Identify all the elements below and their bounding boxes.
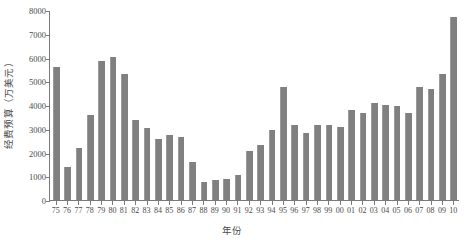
- y-axis-tick-mark: [46, 177, 50, 178]
- bar-series: [50, 11, 459, 200]
- x-axis-tick-label: 77: [74, 206, 82, 216]
- x-axis-tick-mark: [294, 201, 295, 205]
- x-axis-tick-mark: [317, 201, 318, 205]
- x-axis-tick-label: 99: [324, 206, 332, 216]
- x-axis-tick-label: 91: [233, 206, 241, 216]
- bar: [246, 151, 253, 200]
- bar: [394, 106, 401, 200]
- x-axis-tick-label: 78: [86, 206, 94, 216]
- x-axis-tick-label: 84: [154, 206, 162, 216]
- bar: [326, 125, 333, 200]
- bar: [64, 167, 71, 200]
- x-axis-tick-label: 07: [415, 206, 423, 216]
- x-axis-tick-mark: [90, 201, 91, 205]
- bar: [201, 182, 208, 200]
- x-axis-tick-label: 00: [336, 206, 344, 216]
- bar: [257, 145, 264, 200]
- bar: [223, 179, 230, 200]
- y-axis-tick-label: 8000: [29, 7, 46, 16]
- x-axis-tick-mark: [306, 201, 307, 205]
- x-axis-tick-mark: [192, 201, 193, 205]
- x-axis-tick-mark: [78, 201, 79, 205]
- x-axis-tick-mark: [124, 201, 125, 205]
- x-axis-tick-mark: [272, 201, 273, 205]
- x-axis-tick-mark: [340, 201, 341, 205]
- x-axis-tick-label: 05: [393, 206, 401, 216]
- x-axis-tick-label: 89: [211, 206, 219, 216]
- bar-chart-figure: 经费预算（万美元） 010002000300040005000600070008…: [0, 0, 464, 246]
- bar: [98, 61, 105, 200]
- bar: [450, 17, 457, 200]
- bar: [110, 57, 117, 200]
- x-axis-tick-label: 81: [120, 206, 128, 216]
- y-axis-tick-label: 1000: [29, 173, 46, 182]
- x-axis-tick-mark: [328, 201, 329, 205]
- x-axis-tick-mark: [169, 201, 170, 205]
- x-axis-tick-label: 92: [245, 206, 253, 216]
- x-axis-tick-mark: [442, 201, 443, 205]
- x-axis-tick-label: 82: [131, 206, 139, 216]
- y-axis-tick-label: 5000: [29, 78, 46, 87]
- x-axis-tick-mark: [101, 201, 102, 205]
- x-axis-tick-mark: [147, 201, 148, 205]
- bar: [360, 113, 367, 200]
- x-axis-tick-label: 08: [427, 206, 435, 216]
- bar: [53, 67, 60, 200]
- x-axis-tick-mark: [351, 201, 352, 205]
- x-axis-tick-mark: [237, 201, 238, 205]
- y-axis-tick-mark: [46, 11, 50, 12]
- bar: [291, 125, 298, 200]
- bar: [382, 105, 389, 200]
- x-axis-tick-label: 09: [438, 206, 446, 216]
- x-axis-tick-label: 06: [404, 206, 412, 216]
- y-axis-tick-mark: [46, 59, 50, 60]
- bar: [314, 125, 321, 200]
- x-axis-tick-label: 88: [199, 206, 207, 216]
- bar: [235, 175, 242, 200]
- bar: [439, 74, 446, 200]
- x-axis-tick-label: 93: [256, 206, 264, 216]
- x-axis-tick-mark: [56, 201, 57, 205]
- x-axis-tick-label: 86: [177, 206, 185, 216]
- bar: [76, 148, 83, 200]
- y-axis-tick-mark: [46, 154, 50, 155]
- bar: [269, 130, 276, 200]
- y-axis-tick-mark: [46, 82, 50, 83]
- bar: [132, 120, 139, 200]
- bar: [371, 103, 378, 200]
- x-axis-tick-label: 01: [347, 206, 355, 216]
- x-axis-tick-label: 79: [97, 206, 105, 216]
- y-axis-tick-mark: [46, 130, 50, 131]
- bar: [280, 87, 287, 200]
- bar: [121, 74, 128, 200]
- y-axis-title-text: 经费预算（万美元）: [1, 57, 15, 149]
- x-axis-tick-mark: [203, 201, 204, 205]
- x-axis-title: 年份: [0, 223, 464, 237]
- x-axis-tick-mark: [362, 201, 363, 205]
- y-axis-tick-mark: [46, 35, 50, 36]
- x-axis-tick-label: 75: [52, 206, 60, 216]
- x-axis-tick-mark: [249, 201, 250, 205]
- x-axis-tick-mark: [226, 201, 227, 205]
- bar: [166, 135, 173, 200]
- x-axis-tick-label: 76: [63, 206, 71, 216]
- bar: [348, 110, 355, 200]
- plot-area: [49, 11, 459, 201]
- y-axis-tick-label: 3000: [29, 126, 46, 135]
- y-axis-tick-label: 7000: [29, 31, 46, 40]
- y-axis-tick-label: 4000: [29, 102, 46, 111]
- x-axis-tick-mark: [397, 201, 398, 205]
- x-axis-tick-mark: [181, 201, 182, 205]
- x-axis-tick-label: 97: [302, 206, 310, 216]
- bar: [87, 115, 94, 200]
- bar: [428, 89, 435, 201]
- bar: [212, 180, 219, 200]
- x-axis-tick-mark: [408, 201, 409, 205]
- x-axis-tick-mark: [431, 201, 432, 205]
- bar: [144, 128, 151, 200]
- bar: [416, 87, 423, 200]
- bar: [405, 113, 412, 200]
- y-axis-tick-label: 2000: [29, 149, 46, 158]
- bar: [189, 162, 196, 200]
- x-axis-tick-mark: [135, 201, 136, 205]
